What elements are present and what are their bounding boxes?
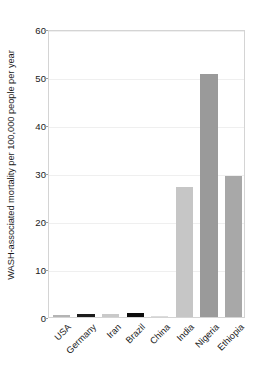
y-tick-label: 60 — [6, 25, 46, 36]
y-tick-label: 0 — [6, 313, 46, 324]
x-tick-label-text: India — [175, 322, 196, 343]
bar — [176, 187, 193, 317]
bar-chart-figure: WASH-associated mortality per 100,000 pe… — [0, 0, 259, 387]
x-tick-label-text: USA — [53, 322, 73, 342]
y-tick-label: 50 — [6, 73, 46, 84]
y-tick-label: 10 — [6, 265, 46, 276]
y-tick-label: 40 — [6, 121, 46, 132]
y-tick-label: 20 — [6, 217, 46, 228]
bar — [53, 315, 70, 317]
y-tick-mark — [44, 318, 48, 319]
bar — [200, 74, 217, 317]
y-axis-title: WASH-associated mortality per 100,000 pe… — [0, 0, 22, 330]
x-tick-label-text: Iran — [104, 322, 122, 340]
y-axis-title-text: WASH-associated mortality per 100,000 pe… — [6, 50, 16, 280]
bar — [225, 176, 242, 317]
x-tick-label-text: Brazil — [124, 322, 147, 345]
plot-area — [48, 30, 245, 318]
y-tick-label: 30 — [6, 169, 46, 180]
gridline — [49, 31, 244, 32]
x-tick-label-text: China — [148, 322, 172, 346]
